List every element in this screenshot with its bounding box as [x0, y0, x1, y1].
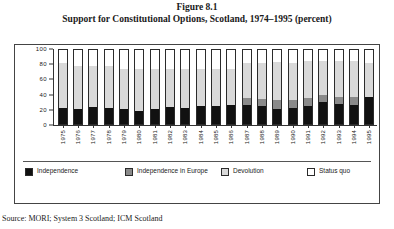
x-axis-tick-mark [170, 125, 171, 128]
y-axis-tick-label: 60 [40, 76, 47, 82]
x-axis-tick-label: 1986 [228, 130, 234, 144]
x-axis-label-cell: 1978 [101, 129, 116, 159]
source-note: Source: MORI; System 3 Scotland; ICM Sco… [2, 214, 394, 224]
legend-item[interactable]: Independence [25, 167, 125, 176]
bar-column [346, 49, 361, 125]
bar-segment [151, 50, 159, 69]
bar-segment [166, 107, 174, 124]
x-axis-tick-label: 1990 [290, 130, 296, 144]
bar-segment [166, 50, 174, 69]
x-axis-label-cell: 1993 [331, 129, 346, 159]
bar-segment [105, 66, 113, 107]
x-axis-labels: 1975197619771978197919801981198219831984… [55, 129, 377, 159]
x-axis-tick-label: 1993 [336, 130, 342, 144]
bar-column [147, 49, 162, 125]
x-axis-tick-label: 1982 [167, 130, 173, 144]
x-axis-label-cell: 1977 [86, 129, 101, 159]
stacked-bar [58, 49, 68, 125]
x-axis-tick-mark [216, 125, 217, 128]
bar-column [193, 49, 208, 125]
bar-column [239, 49, 254, 125]
bar-column [270, 49, 285, 125]
bar-segment [181, 69, 189, 107]
bar-segment [304, 106, 312, 125]
stacked-bar [211, 49, 221, 125]
stacked-bar [226, 49, 236, 125]
stacked-bar [73, 49, 83, 125]
x-axis-tick-label: 1985 [213, 130, 219, 144]
bar-column [224, 49, 239, 125]
bar-segment [151, 109, 159, 124]
stacked-bar [288, 49, 298, 125]
bar-segment [59, 50, 67, 63]
bar-segment [304, 98, 312, 105]
bar-segment [120, 69, 128, 110]
x-axis-tick-label: 1980 [136, 130, 142, 144]
swatch-status-quo-icon [307, 168, 315, 176]
x-axis-tick-label: 1983 [182, 130, 188, 144]
bar-segment [258, 63, 266, 99]
bar-segment [243, 105, 251, 124]
bar-segment [273, 100, 281, 109]
bar-column [116, 49, 131, 125]
bar-segment [350, 50, 358, 61]
x-axis-label-cell: 1991 [300, 129, 315, 159]
stacked-bar [318, 49, 328, 125]
bar-segment [243, 50, 251, 63]
bar-segment [365, 97, 373, 124]
x-axis-tick-mark [201, 125, 202, 128]
x-axis-tick-mark [139, 125, 140, 128]
x-axis-tick-label: 1978 [106, 130, 112, 144]
bar-segment [304, 50, 312, 61]
x-axis-tick-label: 1976 [75, 130, 81, 144]
x-axis-tick-mark [277, 125, 278, 128]
bar-segment [197, 106, 205, 124]
bar-column [101, 49, 116, 125]
x-axis-label-cell: 1983 [178, 129, 193, 159]
stacked-bar [134, 49, 144, 125]
bar-segment [181, 108, 189, 124]
stacked-bar [334, 49, 344, 125]
bar-segment [135, 50, 143, 69]
x-axis-tick-mark [63, 125, 64, 128]
x-axis-tick-label: 1975 [60, 130, 66, 144]
x-axis-label-cell: 1990 [285, 129, 300, 159]
stacked-bar [165, 49, 175, 125]
bar-segment [212, 69, 220, 106]
x-axis-tick-label: 1994 [351, 130, 357, 144]
bar-segment [289, 108, 297, 124]
x-axis-label-cell: 1975 [55, 129, 70, 159]
figure-title-block: Figure 8.1 Support for Constitutional Op… [0, 2, 394, 25]
bar-column [178, 49, 193, 125]
bar-segment [151, 69, 159, 109]
x-axis-tick-mark [109, 125, 110, 128]
bar-column [132, 49, 147, 125]
x-axis-tick-mark [124, 125, 125, 128]
x-axis-tick-mark [231, 125, 232, 128]
plot-area: 020406080100 197519761977197819791980198… [27, 49, 377, 141]
swatch-independence-europe-icon [125, 168, 133, 176]
x-axis-tick-label: 1995 [366, 130, 372, 144]
bar-column [362, 49, 377, 125]
x-axis-label-cell: 1982 [162, 129, 177, 159]
bar-segment [273, 62, 281, 100]
chart-legend: IndependenceIndependence in EuropeDevolu… [25, 167, 373, 176]
bar-column [86, 49, 101, 125]
bar-segment [120, 109, 128, 124]
legend-item-label: Independence in Europe [137, 167, 208, 175]
bar-series-group [55, 49, 377, 125]
bar-segment [105, 108, 113, 124]
legend-item[interactable]: Status quo [307, 167, 373, 176]
bar-column [331, 49, 346, 125]
bar-segment [197, 50, 205, 69]
legend-item[interactable]: Independence in Europe [125, 167, 221, 176]
bar-segment [59, 108, 67, 124]
stacked-bar [349, 49, 359, 125]
x-axis-tick-label: 1989 [274, 130, 280, 144]
x-axis-label-cell: 1979 [116, 129, 131, 159]
y-axis-tick-label: 20 [40, 107, 47, 113]
x-axis-label-cell: 1988 [254, 129, 269, 159]
bar-segment [335, 104, 343, 124]
legend-item[interactable]: Devolution [221, 167, 307, 176]
y-axis: 020406080100 [27, 49, 53, 125]
